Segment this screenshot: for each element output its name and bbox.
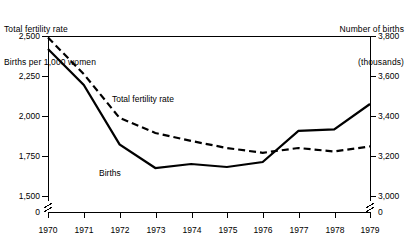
chart-plot-area <box>0 0 409 240</box>
series-line-total-fertility-rate <box>48 38 370 153</box>
left-axis-ticks <box>42 36 48 196</box>
right-axis-ticks <box>370 36 376 196</box>
series-line-births <box>48 49 370 168</box>
x-axis-ticks <box>48 212 370 218</box>
fertility-births-chart: Total fertility rate Births per 1,000 wo… <box>0 0 409 240</box>
